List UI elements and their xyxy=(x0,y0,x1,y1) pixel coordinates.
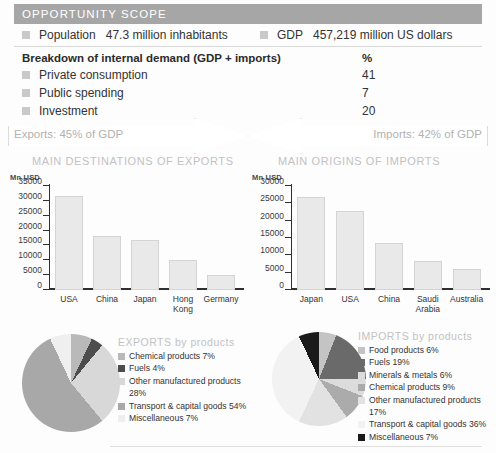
legend-item-label: Transport & capital goods 36% xyxy=(369,418,496,430)
legend-item-label: Fuels 19% xyxy=(369,356,496,368)
legend-swatch-icon xyxy=(358,372,365,379)
legend-swatch-icon xyxy=(118,378,125,385)
legend-item-label: Miscellaneous 7% xyxy=(369,431,496,443)
y-tick-label: 5000 xyxy=(8,265,42,275)
breakdown-swatch-icon xyxy=(22,89,30,97)
y-tick xyxy=(43,215,49,216)
opportunity-scope-panel: OPPORTUNITY SCOPE Population 47.3 millio… xyxy=(14,4,482,120)
y-tick xyxy=(43,185,49,186)
y-tick-label: 25000 xyxy=(8,206,42,216)
imports-pie-legend: IMPORTS by products Food products 6%Fuel… xyxy=(358,330,496,443)
exports-arrow: Exports: 45% of GDP xyxy=(8,118,248,154)
flow-arrows: Exports: 45% of GDP Imports: 42% of GDP xyxy=(0,118,496,154)
bar-slot xyxy=(202,186,240,290)
y-tick-label: 25000 xyxy=(250,193,284,203)
bar xyxy=(297,197,325,290)
legend-item: Food products 6% xyxy=(358,344,496,356)
bottom-divider xyxy=(110,446,482,447)
legend-item-label: Chemical products 9% xyxy=(369,381,496,393)
legend-item: Miscellaneous 7% xyxy=(358,431,496,443)
imports-bar-chart: 050001000015000200002500030000 JapanUSAC… xyxy=(250,184,490,316)
gdp-label: GDP xyxy=(277,28,303,42)
y-tick-label: 5000 xyxy=(250,263,284,273)
x-axis-label: USA xyxy=(50,292,88,314)
legend-item-label: Fuels 4% xyxy=(129,362,258,374)
legend-swatch-icon xyxy=(358,397,365,404)
legend-item-label: Other manufactured products 28% xyxy=(129,375,258,400)
exports-section-title: MAIN DESTINATIONS OF EXPORTS xyxy=(32,155,234,167)
legend-swatch-icon xyxy=(358,347,365,354)
y-tick xyxy=(43,200,49,201)
legend-swatch-icon xyxy=(358,384,365,391)
bar xyxy=(453,269,481,290)
x-axis-label: Australia xyxy=(447,292,486,314)
y-tick xyxy=(285,237,291,238)
y-tick-label: 15000 xyxy=(250,228,284,238)
exports-bar-chart: 05000100001500020000250003000035000 USAC… xyxy=(8,184,244,316)
legend-item: Fuels 4% xyxy=(118,362,258,374)
gdp-swatch-icon xyxy=(260,31,268,39)
population-entry: Population 47.3 million inhabitants xyxy=(14,28,244,42)
y-tick xyxy=(285,272,291,273)
x-axis-label: Saudi Arabia xyxy=(408,292,447,314)
exports-pie-legend: EXPORTS by products Chemical products 7%… xyxy=(118,336,258,424)
breakdown-label: Investment xyxy=(39,104,98,118)
breakdown-label: Private consumption xyxy=(39,68,148,82)
bar-slot xyxy=(50,186,88,290)
y-tick-label: 20000 xyxy=(250,211,284,221)
y-tick xyxy=(285,220,291,221)
x-axis-label: China xyxy=(370,292,409,314)
y-tick-label: 0 xyxy=(8,280,42,290)
imports-legend-items: Food products 6%Fuels 19%Minerals & meta… xyxy=(358,344,496,443)
bar xyxy=(131,240,158,291)
legend-item: Fuels 19% xyxy=(358,356,496,368)
y-tick xyxy=(43,259,49,260)
legend-item-label: Other manufactured products 17% xyxy=(369,394,496,419)
y-tick xyxy=(43,230,49,231)
legend-item: Chemical products 7% xyxy=(118,350,258,362)
legend-swatch-icon xyxy=(118,365,125,372)
bar-slot xyxy=(370,186,409,290)
y-tick xyxy=(285,202,291,203)
legend-item-label: Food products 6% xyxy=(369,344,496,356)
y-tick xyxy=(43,244,49,245)
legend-swatch-icon xyxy=(118,353,125,360)
y-tick-label: 15000 xyxy=(8,235,42,245)
y-tick-label: 0 xyxy=(250,280,284,290)
breakdown-swatch-icon xyxy=(22,107,30,115)
x-axis-label: Germany xyxy=(202,292,240,314)
gdp-entry: GDP 457,219 million US dollars xyxy=(244,28,482,42)
imports-arrow-label: Imports: 42% of GDP xyxy=(373,128,482,140)
breakdown-value: 20 xyxy=(362,104,482,118)
population-label: Population xyxy=(39,28,96,42)
exports-legend-items: Chemical products 7%Fuels 4%Other manufa… xyxy=(118,350,258,424)
x-axis-label: USA xyxy=(331,292,370,314)
legend-item-label: Minerals & metals 6% xyxy=(369,369,496,381)
population-value: 47.3 million inhabitants xyxy=(106,28,228,42)
legend-swatch-icon xyxy=(358,421,365,428)
x-axis-label: China xyxy=(88,292,126,314)
bar-slot xyxy=(164,186,202,290)
y-tick-label: 35000 xyxy=(8,176,42,186)
y-tick xyxy=(285,254,291,255)
breakdown-title-row: Breakdown of internal demand (GDP + impo… xyxy=(14,47,482,66)
x-axis-labels: USAChinaJapanHong KongGermany xyxy=(50,292,240,314)
bar xyxy=(207,275,234,290)
bar xyxy=(336,211,364,290)
breakdown-row-private-consumption: Private consumption 41 xyxy=(14,66,482,84)
bar-slot xyxy=(408,186,447,290)
bar-slot xyxy=(126,186,164,290)
breakdown-row-public-spending: Public spending 7 xyxy=(14,84,482,102)
bar xyxy=(169,260,196,290)
scope-header-bar: OPPORTUNITY SCOPE xyxy=(14,4,482,24)
bar xyxy=(55,196,82,290)
y-tick-label: 20000 xyxy=(8,221,42,231)
legend-swatch-icon xyxy=(118,403,125,410)
imports-arrow: Imports: 42% of GDP xyxy=(248,118,488,154)
bar-slot xyxy=(292,186,331,290)
breakdown-title: Breakdown of internal demand (GDP + impo… xyxy=(22,52,281,64)
y-tick-label: 30000 xyxy=(250,176,284,186)
breakdown-unit: % xyxy=(362,52,482,64)
legend-item: Transport & capital goods 36% xyxy=(358,418,496,430)
bar xyxy=(414,261,442,290)
